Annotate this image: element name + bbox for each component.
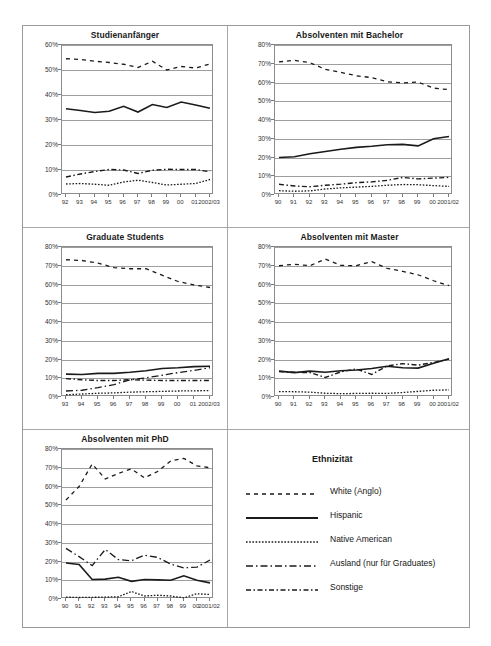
- x-axis-label: 92: [306, 199, 313, 205]
- x-axis-tick: [448, 194, 449, 197]
- x-axis-tick: [386, 194, 387, 197]
- x-axis-label: 90: [275, 401, 282, 407]
- x-axis-tick: [104, 598, 105, 601]
- series-layer: [275, 45, 453, 195]
- y-axis-tick: [58, 504, 61, 505]
- x-axis-label: 00: [429, 199, 436, 205]
- y-axis-label: 10%: [34, 374, 58, 381]
- x-axis-label: 95: [94, 401, 101, 407]
- y-axis-tick: [271, 119, 274, 120]
- x-axis-tick: [157, 598, 158, 601]
- x-axis-label: 98: [148, 199, 155, 205]
- x-axis-tick: [94, 194, 95, 197]
- y-axis-tick: [271, 321, 274, 322]
- x-axis-label: 90: [62, 603, 69, 609]
- y-axis-label: 50%: [247, 97, 271, 104]
- x-axis-label: 96: [367, 401, 374, 407]
- x-axis-tick: [78, 598, 79, 601]
- x-axis-tick: [65, 598, 66, 601]
- y-axis-tick: [58, 523, 61, 524]
- x-axis-tick: [145, 396, 146, 399]
- y-axis-tick: [58, 246, 61, 247]
- x-axis-tick: [195, 194, 196, 197]
- y-axis-tick: [58, 340, 61, 341]
- y-axis-tick: [271, 340, 274, 341]
- x-axis-label: 99: [179, 603, 186, 609]
- x-axis-label: 94: [114, 603, 121, 609]
- x-axis-label: 96: [110, 401, 117, 407]
- y-axis-tick: [58, 302, 61, 303]
- y-axis-label: 10%: [247, 374, 271, 381]
- x-axis-label: 98: [142, 401, 149, 407]
- y-axis-tick: [58, 486, 61, 487]
- series-line: [66, 458, 210, 500]
- x-axis-tick: [293, 396, 294, 399]
- x-axis-label: 91: [290, 199, 297, 205]
- x-axis-label: 95: [105, 199, 112, 205]
- series-line: [279, 259, 449, 286]
- series-layer: [62, 247, 214, 397]
- x-axis-tick: [65, 396, 66, 399]
- chart-panel-studienanfaenger: Studienanfänger 0%10%20%30%40%50%60%9293…: [23, 26, 227, 227]
- legend-item-label: Ausland (nur für Graduates): [330, 558, 435, 568]
- series-line: [66, 102, 210, 113]
- y-axis-tick: [58, 448, 61, 449]
- y-axis-label: 20%: [34, 141, 58, 148]
- legend-item[interactable]: White (Anglo): [246, 486, 471, 500]
- x-axis-tick: [166, 194, 167, 197]
- legend-item[interactable]: Hispanic: [246, 510, 471, 524]
- series-layer: [275, 247, 453, 397]
- x-axis-tick: [340, 194, 341, 197]
- y-axis-tick: [58, 169, 61, 170]
- y-axis-label: 10%: [34, 576, 58, 583]
- y-axis-label: 60%: [247, 280, 271, 287]
- x-axis-tick: [293, 194, 294, 197]
- x-axis-tick: [130, 598, 131, 601]
- x-axis-label: 96: [140, 603, 147, 609]
- legend-item[interactable]: Sonstige: [246, 582, 471, 596]
- legend-item[interactable]: Native American: [246, 534, 471, 548]
- y-axis-tick: [271, 138, 274, 139]
- x-axis-label: 98: [398, 401, 405, 407]
- plot-area: [61, 44, 213, 194]
- x-axis-label: 01: [190, 401, 197, 407]
- x-axis-tick: [417, 396, 418, 399]
- x-axis-label: 99: [414, 199, 421, 205]
- y-axis-tick: [271, 377, 274, 378]
- x-axis-tick: [183, 598, 184, 601]
- legend-line-fine-dot-icon: [246, 536, 318, 548]
- x-axis-tick: [81, 396, 82, 399]
- series-line: [279, 185, 449, 192]
- x-axis-label: 92: [62, 199, 69, 205]
- y-axis-tick: [58, 579, 61, 580]
- legend-item-label: White (Anglo): [330, 486, 382, 496]
- x-axis-tick: [97, 396, 98, 399]
- x-axis-tick: [144, 598, 145, 601]
- x-axis-tick: [324, 396, 325, 399]
- y-axis-label: 60%: [34, 41, 58, 48]
- x-axis-tick: [65, 194, 66, 197]
- x-axis-tick: [117, 598, 118, 601]
- y-axis-tick: [271, 175, 274, 176]
- chart-panel-graduate: Graduate Students 0%10%20%30%40%50%60%70…: [23, 228, 227, 429]
- y-axis-label: 70%: [34, 463, 58, 470]
- y-axis-tick: [271, 396, 274, 397]
- y-axis-label: 10%: [247, 172, 271, 179]
- y-axis-tick: [58, 44, 61, 45]
- x-axis-label: 94: [78, 401, 85, 407]
- x-axis-tick: [161, 396, 162, 399]
- legend-item[interactable]: Ausland (nur für Graduates): [246, 558, 471, 572]
- y-axis-tick: [58, 94, 61, 95]
- y-axis-tick: [271, 63, 274, 64]
- x-axis-tick: [193, 396, 194, 399]
- x-axis-label: 98: [166, 603, 173, 609]
- chart-panel-master: Absolventen mit Master 0%10%20%30%40%50%…: [228, 228, 471, 429]
- x-axis-label: 2002/03: [198, 199, 220, 205]
- x-axis-tick: [448, 396, 449, 399]
- y-axis-label: 20%: [247, 355, 271, 362]
- y-axis-tick: [58, 377, 61, 378]
- x-axis-label: 00: [429, 401, 436, 407]
- y-axis-tick: [58, 194, 61, 195]
- x-axis-label: 93: [62, 401, 69, 407]
- x-axis-label: 97: [126, 401, 133, 407]
